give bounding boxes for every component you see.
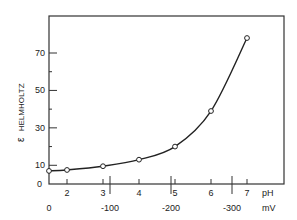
y-tick-label: 50 — [35, 85, 45, 95]
x-tick-label: 6 — [208, 188, 213, 198]
y-tick-label: 70 — [35, 48, 45, 58]
fit-line — [49, 38, 247, 171]
y-axis-title: ε HELMHOLTZ — [15, 83, 26, 142]
mv-tick-label: -200 — [162, 203, 180, 213]
y-tick-label: 10 — [35, 160, 45, 170]
x-axis-ph: 234567 — [64, 179, 249, 198]
y-tick-label: 30 — [35, 123, 45, 133]
data-point-marker — [245, 36, 250, 41]
x-tick-label: 2 — [64, 188, 69, 198]
data-point-marker — [209, 109, 214, 114]
x-tick-label: 5 — [172, 188, 177, 198]
plot-border — [49, 16, 284, 184]
x-axis-title-ph: pH — [262, 188, 274, 198]
data-point-marker — [101, 164, 106, 169]
x-tick-label: 4 — [136, 188, 141, 198]
epsilon-symbol: ε — [15, 137, 26, 142]
x-tick-label: 3 — [100, 188, 105, 198]
y-tick-label: 0 — [37, 179, 42, 189]
data-point-marker — [47, 169, 52, 174]
helmholtz-ph-chart: 010305070 234567 0-100-200-300 ε HELMHOL… — [0, 0, 297, 220]
plot-frame — [49, 16, 284, 184]
mv-tick-label: -300 — [223, 203, 241, 213]
data-point-marker — [137, 157, 142, 162]
mv-tick-label: -100 — [101, 203, 119, 213]
axis-titles: ε HELMHOLTZ pH mV — [15, 83, 276, 213]
data-point-marker — [65, 168, 70, 173]
x-axis-title-mv: mV — [262, 203, 276, 213]
y-axis: 010305070 — [35, 48, 57, 189]
data-points — [47, 36, 250, 174]
y-axis-title-text: HELMHOLTZ — [17, 83, 26, 131]
data-point-marker — [173, 144, 178, 149]
x-tick-label: 7 — [244, 188, 249, 198]
mv-tick-label: 0 — [46, 203, 51, 213]
data-curve — [49, 38, 247, 171]
